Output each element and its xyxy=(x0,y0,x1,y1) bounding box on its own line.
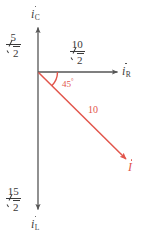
angle-arc-45 xyxy=(52,72,58,86)
angle-value: 45 xyxy=(62,79,71,89)
fraction-il: 15 2 xyxy=(6,186,21,213)
axis-label-il-sub: L xyxy=(35,223,40,232)
fraction-il-numerator: 15 xyxy=(6,186,21,198)
axis-label-ir-base: i xyxy=(122,64,125,78)
axis-label-ir: iR xyxy=(122,65,131,77)
fraction-ir: 10 2 xyxy=(70,39,85,66)
axis-label-ic-base: i xyxy=(31,7,34,21)
magnitude-value: 10 xyxy=(88,104,98,115)
axis-label-ir-sub: R xyxy=(126,70,131,79)
fraction-ic-denominator: 2 xyxy=(6,46,21,59)
overdot-icon xyxy=(125,63,127,65)
fraction-ic-numerator: 5 xyxy=(6,32,21,44)
fraction-il-denominator: 2 xyxy=(6,200,21,213)
magnitude-label-10: 10 xyxy=(88,105,98,115)
phasor-diagram: iC 5 2 10 2 iR 45° 10 I 15 xyxy=(0,0,142,239)
degree-symbol: ° xyxy=(71,77,74,84)
value-label-ir: 10 2 xyxy=(70,39,85,67)
axis-label-il: iL xyxy=(31,218,39,230)
fraction-ic: 5 2 xyxy=(6,32,21,59)
axis-label-ic: iC xyxy=(31,8,40,20)
value-label-ic: 5 2 xyxy=(6,32,21,60)
fraction-ir-denominator: 2 xyxy=(70,53,85,66)
axis-label-il-base: i xyxy=(31,217,34,231)
radical-icon: 2 xyxy=(71,53,84,66)
radical-icon: 2 xyxy=(7,200,20,213)
fraction-ir-numerator: 10 xyxy=(70,39,85,51)
angle-label-45: 45° xyxy=(62,78,74,89)
resultant-label: I xyxy=(128,161,132,173)
value-label-il: 15 2 xyxy=(6,186,21,214)
resultant-label-base: I xyxy=(128,160,132,174)
radical-icon: 2 xyxy=(7,46,20,59)
phasor-diagram-canvas xyxy=(0,0,142,239)
axis-label-ic-sub: C xyxy=(35,13,40,22)
